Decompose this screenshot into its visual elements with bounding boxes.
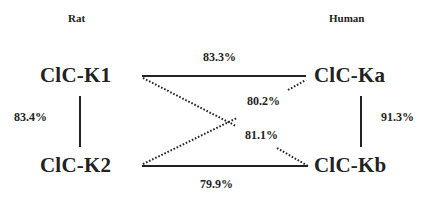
edge-label-k2-ka: 80.2%	[247, 94, 280, 109]
edge-label-k2-kb: 79.9%	[200, 177, 233, 192]
edge-label-k1-ka: 83.3%	[203, 50, 236, 65]
edge-k2-ka-dotted-b	[288, 80, 306, 90]
node-clc-k1: ClC-K1	[40, 63, 111, 88]
edge-k1-kb-dotted-a	[143, 78, 236, 126]
node-clc-ka: ClC-Ka	[314, 63, 385, 88]
group-label-rat: Rat	[68, 12, 85, 24]
edge-k2-ka-dotted-a	[143, 118, 237, 164]
edge-label-k1-k2: 83.4%	[14, 110, 47, 125]
edge-label-ka-kb: 91.3%	[381, 110, 414, 125]
node-clc-kb: ClC-Kb	[314, 153, 386, 178]
node-clc-k2: ClC-K2	[40, 153, 111, 178]
edge-label-k1-kb: 81.1%	[245, 128, 278, 143]
edge-k1-kb-dotted-b	[277, 148, 308, 166]
group-label-human: Human	[329, 12, 364, 24]
